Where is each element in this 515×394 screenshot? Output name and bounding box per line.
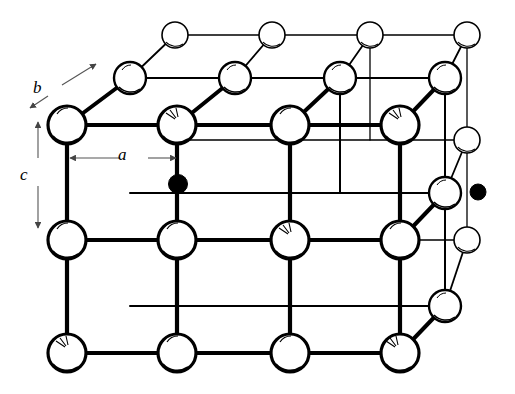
lattice-drawing [0, 0, 515, 394]
axis-label-b: b [33, 79, 42, 96]
crystal-lattice-figure: a b c [0, 0, 515, 394]
depth-bonds-middle-to-back [130, 35, 467, 306]
small-black-sphere-2 [470, 184, 486, 200]
back-layer-bonds [175, 35, 467, 240]
front-layer-bonds [67, 125, 400, 353]
small-black-sphere-1 [169, 175, 188, 194]
dimension-arrows [30, 64, 176, 228]
axis-label-a: a [118, 146, 127, 163]
axis-arrow-b-lower [30, 96, 48, 108]
axis-label-c: c [20, 166, 28, 183]
back-layer-atoms [162, 22, 480, 253]
axis-arrow-b-upper [62, 64, 96, 85]
